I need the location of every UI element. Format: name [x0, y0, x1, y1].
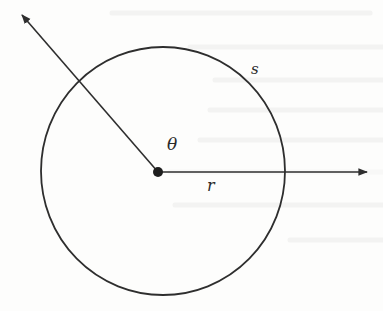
circle-angle-diagram: θ r s	[0, 0, 383, 311]
theta-label: θ	[167, 134, 177, 154]
center-point	[153, 167, 163, 177]
diagram-figure: θ r s	[0, 0, 383, 311]
arc-length-label-s: s	[251, 60, 259, 78]
radius-label-r: r	[207, 176, 216, 195]
